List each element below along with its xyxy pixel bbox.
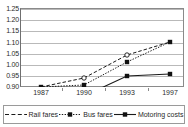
y-tick-label: 1.05 <box>6 50 19 57</box>
x-tick-label: 1993 <box>119 89 135 97</box>
y-tick-label: 1.00 <box>6 61 19 68</box>
data-point-motoring-costs <box>39 85 43 87</box>
x-axis: 1987 1990 1993 1997 <box>20 88 184 100</box>
data-point-bus-fares <box>82 83 86 87</box>
y-tick-label: 1.25 <box>6 5 19 12</box>
legend-swatch-motoring-costs <box>114 110 136 119</box>
chart-legend: Rail fares Bus fares Motoring costs <box>3 105 185 124</box>
series-line-motoring-costs <box>41 74 170 87</box>
x-tick-label: 1997 <box>162 89 178 97</box>
y-tick-label: 0.90 <box>6 83 19 90</box>
series-line-bus-fares <box>41 42 170 87</box>
data-point-motoring-costs <box>125 74 129 78</box>
data-point-rail-fares <box>82 76 86 80</box>
legend-swatch-bus-fares <box>59 110 81 119</box>
data-point-motoring-costs <box>168 72 172 76</box>
data-point-rail-fares <box>125 53 129 57</box>
legend-swatch-rail-fares <box>5 110 27 119</box>
legend-label: Bus fares <box>83 111 113 119</box>
y-axis: 1.25 1.20 1.15 1.10 1.05 1.00 0.95 0.90 <box>0 8 20 87</box>
x-tick-label: 1990 <box>76 89 92 97</box>
x-tick-mark <box>148 88 149 91</box>
y-tick-label: 1.20 <box>6 16 19 23</box>
legend-label: Rail fares <box>29 111 59 119</box>
series-line-rail-fares <box>41 42 170 87</box>
legend-item-bus-fares: Bus fares <box>59 110 113 119</box>
x-tick-mark <box>62 88 63 91</box>
data-point-bus-fares <box>168 40 172 44</box>
legend-label: Motoring costs <box>138 111 184 119</box>
legend-item-rail-fares: Rail fares <box>5 110 59 119</box>
y-tick-label: 1.15 <box>6 27 19 34</box>
y-tick-label: 1.10 <box>6 39 19 46</box>
y-tick-label: 0.95 <box>6 72 19 79</box>
data-series-layer <box>20 8 184 87</box>
legend-item-motoring-costs: Motoring costs <box>114 110 184 119</box>
line-chart: 1.25 1.20 1.15 1.10 1.05 1.00 0.95 0.90 <box>0 0 188 127</box>
x-tick-mark <box>105 88 106 91</box>
data-point-bus-fares <box>125 60 129 64</box>
x-tick-label: 1987 <box>33 89 49 97</box>
